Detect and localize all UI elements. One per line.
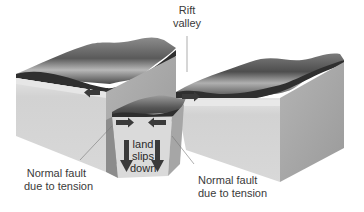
rift-valley-label: Rift valley bbox=[165, 4, 209, 30]
land-slips-down-line3: down bbox=[130, 162, 156, 174]
rift-valley-label-line1: Rift bbox=[165, 4, 209, 17]
land-slips-down-line2: slips bbox=[130, 150, 156, 162]
rift-valley-label-line2: valley bbox=[165, 17, 209, 30]
right-block-front bbox=[176, 98, 280, 182]
left-fault-label-line2: due to tension bbox=[24, 180, 86, 193]
right-fault-label-line1: Normal fault bbox=[198, 174, 278, 187]
land-slips-down-label: land slips down bbox=[130, 138, 156, 174]
right-fault-label-line2: due to tension bbox=[198, 187, 278, 200]
right-block-topsoil bbox=[176, 100, 280, 106]
left-fault-label: Normal fault due to tension bbox=[24, 167, 86, 193]
left-fault-label-line1: Normal fault bbox=[24, 167, 86, 180]
right-fault-label: Normal fault due to tension bbox=[198, 174, 278, 200]
land-slips-down-line1: land bbox=[130, 138, 156, 150]
right-block bbox=[176, 54, 344, 182]
